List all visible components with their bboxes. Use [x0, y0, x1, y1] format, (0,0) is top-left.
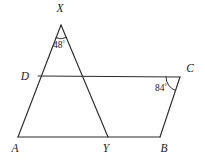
vertex-label-c: C: [186, 62, 194, 74]
geometry-figure: X D C A Y B 48° 84°: [0, 0, 205, 160]
vertex-label-x: X: [55, 2, 64, 14]
segment-xy: [61, 25, 108, 137]
angle-label-x: 48°: [53, 40, 66, 51]
geometry-canvas: X D C A Y B 48° 84°: [0, 0, 205, 160]
angle-label-c: 84°: [155, 83, 168, 94]
vertex-label-y: Y: [103, 142, 111, 154]
angle-arc-c: [166, 77, 176, 91]
degree-symbol-x: °: [63, 40, 66, 46]
angle-arc-x: [56, 38, 67, 39]
angle-value-c: 84: [155, 83, 165, 93]
segment-dc: [38, 76, 180, 77]
vertex-label-d: D: [20, 70, 30, 82]
vertex-label-b: B: [160, 142, 167, 154]
vertex-label-a: A: [10, 142, 19, 154]
angle-value-x: 48: [53, 40, 63, 50]
